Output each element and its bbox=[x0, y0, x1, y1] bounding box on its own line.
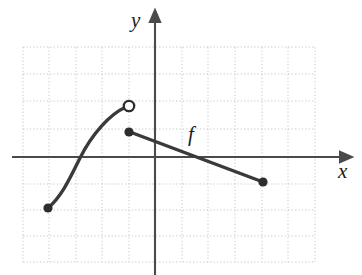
open-endpoint-circle bbox=[124, 101, 134, 111]
closed-endpoint-segment-right-dot bbox=[258, 177, 267, 186]
closed-endpoint-left-dot bbox=[43, 203, 52, 212]
y-axis-label: y bbox=[131, 10, 140, 31]
grid-lines bbox=[23, 47, 315, 262]
closed-endpoint-segment-left-dot bbox=[124, 127, 133, 136]
graph-figure: y x f bbox=[0, 0, 362, 275]
x-axis-label: x bbox=[338, 161, 347, 182]
function-label: f bbox=[188, 124, 194, 145]
graph-canvas bbox=[0, 0, 362, 275]
